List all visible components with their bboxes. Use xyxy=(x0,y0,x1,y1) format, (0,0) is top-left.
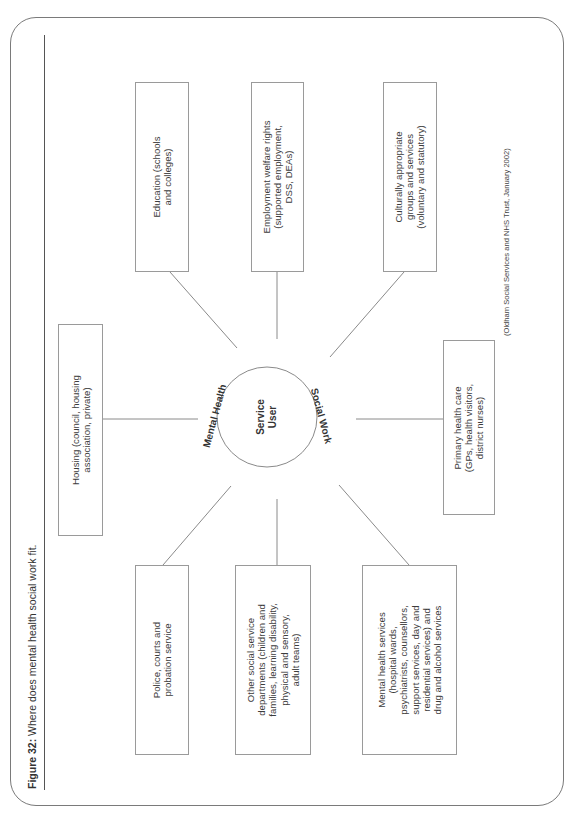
text-line: families, learning disability, xyxy=(267,603,278,716)
text-line: Other social service xyxy=(245,603,256,716)
node-employment: Employment welfare rights (supported emp… xyxy=(251,82,304,272)
node-employment-text: Employment welfare rights (supported emp… xyxy=(261,120,295,233)
text-line: Employment welfare rights xyxy=(261,120,272,233)
connector-education xyxy=(170,272,237,348)
service-user-label-line2: User xyxy=(267,399,279,435)
connector-cultural xyxy=(330,272,404,357)
connector-police xyxy=(163,486,231,565)
node-police: Police, courts and probation service xyxy=(135,565,189,755)
text-line: adult teams) xyxy=(290,603,301,716)
text-line: DSS, DEAs) xyxy=(283,120,294,233)
node-housing-text: Housing (council, housing association, p… xyxy=(69,375,91,485)
node-education: Education (schools and colleges) xyxy=(135,82,189,272)
node-other-social: Other social service departments (childr… xyxy=(235,565,311,755)
node-other-social-text: Other social service departments (childr… xyxy=(245,603,301,716)
text-line: Education (schools xyxy=(151,136,162,217)
text-line: Primary health care xyxy=(452,383,463,472)
text-line: district nurses) xyxy=(475,383,486,472)
text-line: Housing (council, housing xyxy=(69,375,80,485)
node-mental-health-services-text: Mental health services (hospital wards, … xyxy=(376,605,443,714)
service-user-label-line1: Service xyxy=(255,399,267,435)
text-line: (supported employment, xyxy=(272,120,283,233)
text-line: (voluntary and statutory) xyxy=(416,125,427,228)
node-police-text: Police, courts and probation service xyxy=(151,622,173,698)
text-line: Culturally appropriate xyxy=(393,125,404,228)
text-line: probation service xyxy=(162,622,173,698)
service-user-node: Service User xyxy=(217,367,317,467)
node-primary-health-text: Primary health care (GPs, health visitor… xyxy=(452,383,486,472)
node-cultural-text: Culturally appropriate groups and servic… xyxy=(393,125,427,228)
node-primary-health: Primary health care (GPs, health visitor… xyxy=(443,340,495,515)
text-line: groups and services xyxy=(404,125,415,228)
node-mental-health-services: Mental health services (hospital wards, … xyxy=(362,565,457,755)
text-line: (GPs, health visitors, xyxy=(463,383,474,472)
connector-mental-health xyxy=(339,485,409,565)
text-line: physical and sensory, xyxy=(279,603,290,716)
text-line: association, private) xyxy=(81,375,92,485)
text-line: drug and alcohol services xyxy=(432,605,443,714)
text-line: support services, day and xyxy=(410,605,421,714)
text-line: Mental health services xyxy=(376,605,387,714)
text-line: psychiatrists, counsellors, xyxy=(398,605,409,714)
text-line: (hospital wards, xyxy=(387,605,398,714)
text-line: residential services) and xyxy=(421,605,432,714)
text-line: Police, courts and xyxy=(151,622,162,698)
node-education-text: Education (schools and colleges) xyxy=(151,136,173,217)
text-line: departments (children and xyxy=(256,603,267,716)
node-cultural: Culturally appropriate groups and servic… xyxy=(383,82,437,272)
node-housing: Housing (council, housing association, p… xyxy=(58,324,103,536)
service-user-label: Service User xyxy=(255,399,279,435)
text-line: and colleges) xyxy=(162,136,173,217)
